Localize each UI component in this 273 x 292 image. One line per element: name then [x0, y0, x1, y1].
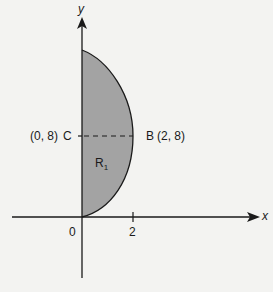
region-label-subscript: 1: [104, 163, 108, 172]
diagram-graphic: [0, 0, 273, 292]
x-tick-label-2: 2: [129, 226, 136, 238]
region-label-main: R: [95, 156, 104, 170]
diagram-canvas: y x 0 2 (0, 8) C B (2, 8) R1: [0, 0, 273, 292]
origin-label: 0: [69, 226, 76, 238]
point-c-label: C: [63, 130, 72, 142]
point-c-coords: (0, 8): [30, 130, 58, 142]
region-label: R1: [95, 157, 108, 172]
point-b-coords: (2, 8): [157, 130, 185, 142]
x-axis-label: x: [262, 210, 268, 222]
region-r1-shape: [82, 50, 133, 217]
point-b-label: B: [146, 130, 154, 142]
y-axis-label: y: [78, 3, 84, 15]
